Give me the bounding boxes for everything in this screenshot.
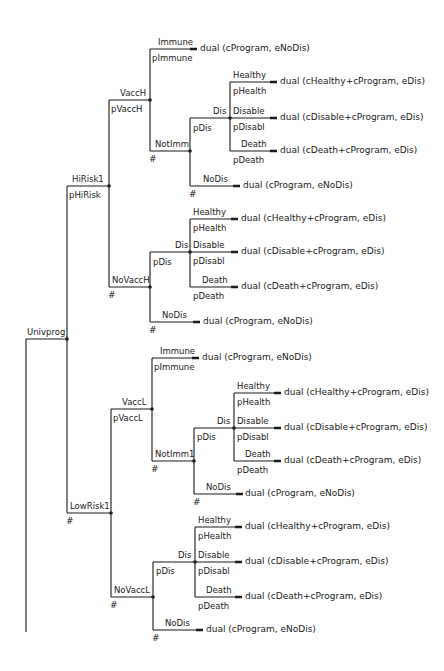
branch-label: Death (202, 276, 228, 285)
branch-label: VaccL (122, 398, 146, 407)
branch-label: LowRisk1 (70, 502, 110, 511)
branch-label: Death (206, 586, 232, 595)
branch-label: HiRisk1 (72, 175, 104, 184)
branch-label: Immune (158, 38, 193, 47)
branch-prob: pDisabl (237, 433, 269, 442)
payoff: dual (cProgram, eNoDis) (243, 181, 353, 190)
payoff: dual (cProgram, eNoDis) (200, 44, 310, 53)
branch-label: NoDis (206, 483, 231, 492)
branch-label: Disable (198, 551, 230, 560)
branch-prob: pImmune (154, 363, 194, 372)
branch-prob: # (149, 326, 157, 335)
payoff: dual (cHealthy+cProgram, eDis) (245, 522, 390, 531)
payoff: dual (cProgram, eNoDis) (203, 317, 313, 326)
branch-label: NoDis (162, 311, 187, 320)
payoff: dual (cDeath+cProgram, eDis) (245, 592, 382, 601)
branch-label: Dis (178, 551, 191, 560)
root-label: Univprog (27, 328, 65, 337)
payoff: dual (cDeath+cProgram, eDis) (241, 282, 378, 291)
branch-prob: # (110, 601, 118, 610)
branch-label: Immune (160, 347, 195, 356)
branch-prob: # (108, 291, 116, 300)
branch-label: NotImm1 (155, 450, 194, 459)
payoff: dual (cDisable+cProgram, eDis) (280, 113, 424, 122)
branch-label: VaccH (120, 89, 146, 98)
branch-label: Death (241, 140, 267, 149)
payoff: dual (cDisable+cProgram, eDis) (284, 423, 428, 432)
branch-prob: pDeath (237, 466, 268, 475)
branch-label: Dis (217, 417, 230, 426)
branch-prob: pImmune (152, 54, 192, 63)
branch-prob: pHealth (233, 87, 266, 96)
branch-prob: pHealth (193, 224, 226, 233)
branch-prob: pDisabl (193, 257, 225, 266)
payoff: dual (cProgram, eNoDis) (245, 489, 355, 498)
branch-prob: pHealth (237, 398, 270, 407)
branch-label: Disable (193, 241, 225, 250)
branch-label: Healthy (233, 71, 266, 80)
branch-prob: # (149, 155, 157, 164)
branch-label: NoVaccH (112, 276, 150, 285)
branch-prob: # (66, 517, 74, 526)
branch-prob: pDisabl (198, 567, 230, 576)
branch-prob: pDis (193, 124, 212, 133)
branch-prob: pVaccL (113, 414, 143, 423)
payoff: dual (cDeath+cProgram, eDis) (284, 456, 421, 465)
branch-prob: pHealth (198, 532, 231, 541)
branch-prob: # (189, 190, 197, 199)
branch-prob: pVaccH (111, 105, 143, 114)
payoff: dual (cHealthy+cProgram, eDis) (241, 214, 386, 223)
branch-label: Dis (175, 241, 188, 250)
branch-label: Healthy (193, 208, 226, 217)
branch-label: Death (245, 450, 271, 459)
branch-prob: pDeath (233, 156, 264, 165)
branch-prob: pDis (156, 567, 175, 576)
branch-label: NotImm (155, 140, 189, 149)
branch-label: Disable (233, 107, 265, 116)
payoff: dual (cDisable+cProgram, eDis) (241, 247, 385, 256)
branch-prob: pHiRisk (69, 191, 101, 200)
branch-prob: pDis (153, 258, 172, 267)
branch-prob: # (151, 465, 159, 474)
payoff: dual (cProgram, eNoDis) (206, 625, 316, 634)
branch-label: Healthy (237, 382, 270, 391)
branch-label: NoDis (165, 619, 190, 628)
branch-prob: pDeath (193, 292, 224, 301)
branch-label: NoDis (203, 175, 228, 184)
branch-label: Dis (213, 107, 226, 116)
branch-prob: # (193, 498, 201, 507)
branch-label: Disable (237, 417, 269, 426)
payoff: dual (cHealthy+cProgram, eDis) (284, 388, 429, 397)
branch-prob: pDis (197, 433, 216, 442)
payoff: dual (cHealthy+cProgram, eDis) (280, 77, 425, 86)
branch-label: Healthy (198, 516, 231, 525)
payoff: dual (cDisable+cProgram, eDis) (245, 557, 389, 566)
branch-prob: # (152, 634, 160, 643)
payoff: dual (cProgram, eNoDis) (202, 353, 312, 362)
branch-prob: pDisabl (233, 123, 265, 132)
branch-label: NoVaccL (114, 586, 150, 595)
branch-prob: pDeath (198, 602, 229, 611)
payoff: dual (cDeath+cProgram, eDis) (280, 146, 417, 155)
